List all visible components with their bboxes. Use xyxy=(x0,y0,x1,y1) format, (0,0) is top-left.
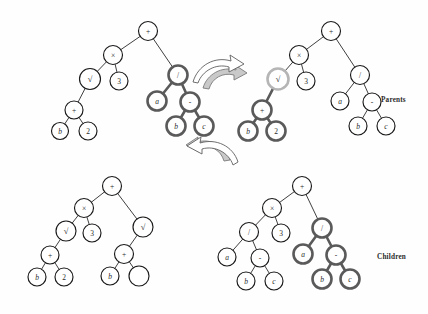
tree-node[interactable]: 3 xyxy=(272,224,290,242)
swap-arrow-bottom-icon xyxy=(186,137,238,165)
node-label: √ xyxy=(64,226,69,236)
tree-node[interactable]: / xyxy=(169,66,188,85)
tree-node[interactable]: 2 xyxy=(79,122,97,140)
tree-edge xyxy=(308,235,316,246)
tree-node[interactable]: - xyxy=(251,249,269,267)
tree-node[interactable]: b xyxy=(237,272,255,290)
tree-node[interactable]: √ xyxy=(268,69,289,90)
node-label: a xyxy=(155,97,159,106)
node-label: + xyxy=(48,251,52,260)
tree-node[interactable]: a xyxy=(148,92,167,111)
tree-node[interactable]: × xyxy=(290,46,309,65)
tree-node[interactable]: - xyxy=(327,246,346,265)
node-label: 3 xyxy=(304,77,308,86)
tree-node[interactable]: 3 xyxy=(110,72,128,90)
tree-edge xyxy=(275,216,278,225)
tree-node[interactable]: √ xyxy=(80,69,101,90)
tree-node[interactable]: - xyxy=(181,93,200,112)
tree-node[interactable]: + xyxy=(253,101,272,120)
tree-edge xyxy=(266,88,273,102)
node-label: + xyxy=(122,250,126,259)
tree-node[interactable]: b xyxy=(313,270,332,289)
tree-node[interactable]: / xyxy=(240,223,259,242)
tree-edge xyxy=(117,193,137,219)
diagram-canvas: +×√3+b2/a-bc+×√3+b2/a-bc+×√3+b2√+b+×/3a-… xyxy=(0,0,428,314)
tree-edge xyxy=(336,39,355,68)
tree-node[interactable]: c xyxy=(195,117,214,136)
tree-node[interactable]: × xyxy=(104,46,123,65)
tree-node[interactable]: + xyxy=(293,177,312,196)
tree-node[interactable]: / xyxy=(313,219,332,238)
tree-node[interactable]: b xyxy=(28,268,46,286)
node-label: × xyxy=(270,204,274,213)
tree-edge xyxy=(279,191,294,202)
tree-node[interactable]: 3 xyxy=(83,224,101,242)
tree-node[interactable]: c xyxy=(341,270,360,289)
tree-node[interactable]: × xyxy=(263,199,282,218)
node-label: √ xyxy=(88,74,93,84)
tree-edge xyxy=(120,36,140,50)
node-label: b xyxy=(108,272,112,281)
tree-node[interactable]: + xyxy=(139,22,158,41)
node-label: b xyxy=(58,127,62,136)
tree-edge xyxy=(153,38,173,67)
tree-edge xyxy=(115,64,117,73)
tree-edge xyxy=(87,217,90,225)
tree-node[interactable]: + xyxy=(103,177,122,196)
tree-edge xyxy=(163,82,173,94)
tree-node[interactable]: √ xyxy=(56,221,76,241)
tree-edge xyxy=(129,261,134,268)
children-label: Children xyxy=(377,253,406,261)
tree-edge xyxy=(72,215,79,223)
tree-node[interactable] xyxy=(129,266,149,286)
node-label: a xyxy=(301,250,305,259)
tree-node[interactable]: 2 xyxy=(267,122,286,141)
node-label: b xyxy=(244,277,248,286)
tree-node[interactable]: + xyxy=(41,246,59,264)
tree-edge xyxy=(362,109,367,118)
tree-node[interactable]: √ xyxy=(133,217,153,237)
tree-node[interactable]: c xyxy=(265,272,283,290)
node-label: + xyxy=(329,27,333,36)
tree-edge xyxy=(79,117,84,124)
node-label: √ xyxy=(276,74,281,84)
tree-edge xyxy=(306,194,318,220)
tree-node[interactable]: a xyxy=(218,248,236,266)
swap-arrow-top-icon xyxy=(193,55,247,89)
node-label: + xyxy=(110,182,114,191)
tree-node[interactable]: b xyxy=(167,117,186,136)
tree-edge xyxy=(55,262,60,270)
node-label: a xyxy=(338,97,342,106)
parents-label: Parents xyxy=(381,96,406,104)
tree-node[interactable]: a xyxy=(331,92,349,110)
tree-edge xyxy=(129,235,137,247)
tree-edge xyxy=(64,117,69,124)
node-label: 3 xyxy=(90,229,94,238)
tree-edge xyxy=(233,239,243,251)
tree-edge xyxy=(264,265,269,273)
tree-node[interactable]: - xyxy=(363,93,381,111)
tree-edge xyxy=(376,109,381,118)
tree-node[interactable]: / xyxy=(351,66,370,85)
tree-node[interactable]: b xyxy=(239,122,258,141)
tree-node[interactable]: b xyxy=(101,267,119,285)
node-label: × xyxy=(297,51,301,60)
tree-node[interactable]: 2 xyxy=(55,268,73,286)
tree-node[interactable]: b xyxy=(52,123,69,140)
tree-node[interactable]: a xyxy=(294,245,313,264)
node-circle xyxy=(129,266,149,286)
tree-node[interactable]: + xyxy=(65,101,83,119)
tree-node[interactable]: × xyxy=(75,199,94,218)
tree-edge xyxy=(97,61,107,71)
node-label: b xyxy=(174,122,178,131)
node-label: b xyxy=(356,122,360,131)
tree-edge xyxy=(326,236,332,247)
tree-node[interactable]: + xyxy=(115,245,134,264)
node-label: + xyxy=(260,106,264,115)
tree-node[interactable]: b xyxy=(349,117,367,135)
tree-edge xyxy=(115,262,120,269)
tree-node[interactable]: c xyxy=(377,117,395,135)
tree-node[interactable]: 3 xyxy=(297,72,315,90)
tree-node[interactable]: + xyxy=(322,22,341,41)
tree-edge xyxy=(41,262,45,269)
